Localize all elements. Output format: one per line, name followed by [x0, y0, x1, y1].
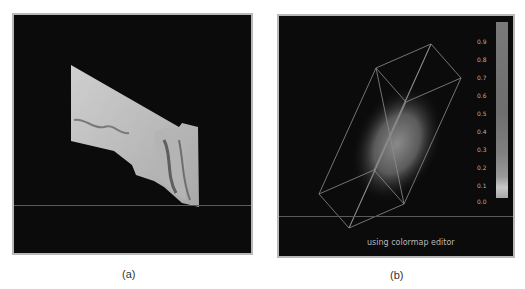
colorbar-tick: 0.4	[477, 128, 487, 135]
colorbar-tick: 0.2	[477, 164, 487, 171]
colorbar-tick: 0.0	[477, 198, 487, 205]
isosurface-render	[14, 15, 253, 255]
colorbar-tick: 0.8	[477, 56, 487, 63]
colormap-annotation: using colormap editor	[367, 238, 455, 247]
panel-b-volume-render-view: 0.9 0.8 0.7 0.6 0.5 0.4 0.3 0.2 0.1 0.0 …	[277, 14, 515, 258]
ground-plane-line	[279, 216, 513, 217]
colorbar-tick: 0.3	[477, 146, 487, 153]
panel-a-isosurface-view	[12, 13, 253, 255]
colorbar-tick: 0.9	[477, 38, 487, 45]
colorbar-tick: 0.6	[477, 92, 487, 99]
colorbar-tick: 0.5	[477, 110, 487, 117]
colorbar-tick: 0.7	[477, 74, 487, 81]
ground-plane-line	[14, 205, 251, 206]
caption-a: (a)	[122, 268, 135, 280]
caption-b: (b)	[390, 269, 403, 281]
volume-render	[279, 16, 515, 258]
colorbar	[496, 22, 508, 198]
colorbar-tick: 0.1	[477, 182, 487, 189]
